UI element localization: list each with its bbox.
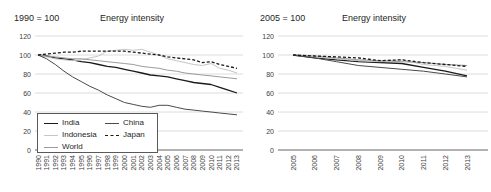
x-tick-label-2008: 2008 — [190, 155, 197, 171]
right-chart-2005-base: 0204060801001202005200620072008200920102… — [246, 0, 491, 192]
right-chart-canvas: 0204060801001202005200620072008200920102… — [246, 0, 491, 192]
left-chart-base-year-label: 1990 = 100 — [14, 13, 59, 23]
x-tick-label-1995: 1995 — [78, 155, 85, 171]
x-tick-label-2002: 2002 — [138, 155, 145, 171]
y-tick-label-120: 120 — [262, 33, 274, 40]
legend-swatch-world — [44, 147, 58, 148]
legend-label-japan: Japan — [123, 130, 145, 140]
x-tick-label-1994: 1994 — [69, 155, 76, 171]
legend-item-world: World — [44, 142, 83, 152]
legend-swatch-india — [44, 123, 58, 124]
y-tick-label-80: 80 — [266, 71, 274, 78]
legend-item-japan: Japan — [105, 130, 145, 140]
x-tick-label-2011: 2011 — [420, 155, 427, 170]
legend-label-china: China — [123, 118, 144, 128]
x-tick-label-1993: 1993 — [60, 155, 67, 171]
x-tick-label-1997: 1997 — [95, 155, 102, 171]
x-tick-label-1992: 1992 — [52, 155, 59, 171]
x-tick-label-2009: 2009 — [199, 155, 206, 171]
legend-box: IndiaIndonesiaWorldChinaJapan — [37, 113, 158, 153]
legend-swatch-japan — [105, 135, 119, 136]
y-tick-label-120: 120 — [19, 33, 31, 40]
legend-label-indonesia: Indonesia — [62, 130, 97, 140]
legend-item-china: China — [105, 118, 144, 128]
y-tick-label-100: 100 — [19, 52, 31, 59]
y-tick-label-0: 0 — [270, 147, 274, 154]
right-chart-title: Energy intensity — [342, 13, 406, 23]
right-chart-base-year-label: 2005 = 100 — [260, 13, 305, 23]
y-tick-label-60: 60 — [266, 90, 274, 97]
x-tick-label-2012: 2012 — [442, 155, 449, 171]
x-tick-label-2003: 2003 — [147, 155, 154, 171]
x-tick-label-2008: 2008 — [355, 155, 362, 171]
series-line-indonesia — [38, 49, 237, 73]
series-line-world — [38, 55, 237, 79]
x-tick-label-2007: 2007 — [333, 155, 340, 171]
x-tick-label-2005: 2005 — [290, 155, 297, 171]
series-line-india — [293, 55, 467, 76]
x-tick-label-1990: 1990 — [35, 155, 42, 171]
x-tick-label-2007: 2007 — [182, 155, 189, 171]
x-tick-label-2004: 2004 — [156, 155, 163, 171]
legend-swatch-china — [105, 123, 119, 124]
left-chart-title: Energy intensity — [100, 13, 164, 23]
left-chart-1990-base: 0204060801001201990199119921993199419951… — [0, 0, 245, 192]
x-tick-label-2011: 2011 — [216, 155, 223, 170]
x-tick-label-1991: 1991 — [43, 155, 50, 171]
x-tick-label-2006: 2006 — [311, 155, 318, 171]
legend-label-world: World — [62, 142, 83, 152]
x-tick-label-2010: 2010 — [208, 155, 215, 171]
legend-label-india: India — [62, 118, 79, 128]
legend-item-indonesia: Indonesia — [44, 130, 97, 140]
x-tick-label-1998: 1998 — [104, 155, 111, 171]
y-tick-label-40: 40 — [266, 109, 274, 116]
x-tick-label-2010: 2010 — [398, 155, 405, 171]
x-tick-label-2001: 2001 — [130, 155, 137, 171]
legend-swatch-indonesia — [44, 135, 58, 136]
y-tick-label-80: 80 — [23, 71, 31, 78]
x-tick-label-2013: 2013 — [464, 155, 471, 171]
x-tick-label-2013: 2013 — [233, 155, 240, 171]
y-tick-label-40: 40 — [23, 109, 31, 116]
y-tick-label-20: 20 — [23, 128, 31, 135]
x-tick-label-2012: 2012 — [225, 155, 232, 171]
y-tick-label-0: 0 — [27, 147, 31, 154]
x-tick-label-2005: 2005 — [164, 155, 171, 171]
y-tick-label-60: 60 — [23, 90, 31, 97]
x-tick-label-1996: 1996 — [86, 155, 93, 171]
x-tick-label-2006: 2006 — [173, 155, 180, 171]
series-line-japan — [293, 55, 467, 66]
y-tick-label-20: 20 — [266, 128, 274, 135]
y-tick-label-100: 100 — [262, 52, 274, 59]
left-chart-canvas: 0204060801001201990199119921993199419951… — [0, 0, 245, 192]
energy-intensity-figure: { "colors": { "background": "#ffffff", "… — [0, 0, 491, 192]
x-tick-label-2009: 2009 — [377, 155, 384, 171]
legend-item-india: India — [44, 118, 79, 128]
x-tick-label-2000: 2000 — [121, 155, 128, 171]
x-tick-label-1999: 1999 — [112, 155, 119, 171]
